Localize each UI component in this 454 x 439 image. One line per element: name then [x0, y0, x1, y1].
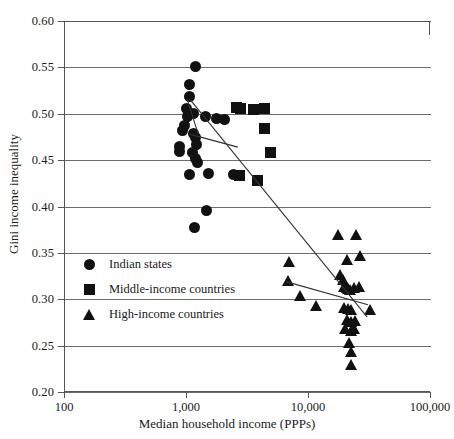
- y-tick-mark: [58, 160, 64, 161]
- gridline: [65, 207, 431, 208]
- gridline: [65, 346, 431, 347]
- x-tick-mark: [186, 392, 187, 398]
- data-point-circle: [174, 146, 185, 157]
- legend-item-square: Middle-income countries: [76, 277, 235, 302]
- x-tick-mark: [430, 392, 431, 398]
- data-point-triangle: [310, 300, 322, 311]
- circle-marker-icon: [76, 259, 102, 270]
- data-point-circle: [184, 169, 195, 180]
- data-point-triangle: [294, 290, 306, 301]
- square-glyph: [84, 284, 95, 295]
- triangle-glyph: [83, 309, 95, 320]
- data-point-circle: [203, 168, 214, 179]
- y-tick-mark: [58, 299, 64, 300]
- data-point-square: [259, 123, 270, 134]
- data-point-square: [248, 104, 259, 115]
- data-point-circle: [189, 222, 200, 233]
- data-point-triangle: [345, 346, 357, 357]
- x-tick-label: 1,000: [172, 401, 200, 414]
- gridline: [65, 67, 431, 68]
- y-tick-label: 0.55: [2, 61, 54, 74]
- triangle-marker-icon: [76, 309, 102, 320]
- x-tick-mark: [308, 392, 309, 398]
- y-tick-label: 0.25: [2, 340, 54, 353]
- data-point-circle: [219, 114, 230, 125]
- x-tick-label: 100: [55, 401, 74, 414]
- x-tick-mark: [64, 392, 65, 398]
- data-point-circle: [201, 205, 212, 216]
- y-tick-label: 0.50: [2, 108, 54, 121]
- data-point-circle: [192, 157, 203, 168]
- y-tick-label: 0.20: [2, 386, 54, 399]
- x-tick-label: 100,000: [410, 401, 451, 414]
- data-point-triangle: [364, 304, 376, 315]
- data-point-square: [259, 103, 270, 114]
- legend-label: High-income countries: [109, 307, 224, 322]
- gridline: [65, 392, 431, 393]
- data-point-circle: [188, 108, 199, 119]
- square-marker-icon: [76, 284, 102, 295]
- data-point-triangle: [345, 359, 357, 370]
- legend-label: Middle-income countries: [109, 282, 235, 297]
- y-tick-mark: [58, 21, 64, 22]
- data-point-triangle: [354, 250, 366, 261]
- data-point-square: [265, 147, 276, 158]
- y-tick-mark: [58, 207, 64, 208]
- data-point-triangle: [332, 229, 344, 240]
- chart-legend: Indian statesMiddle-income countriesHigh…: [76, 252, 235, 327]
- legend-item-circle: Indian states: [76, 252, 235, 277]
- data-point-triangle: [353, 281, 365, 292]
- y-tick-mark: [58, 253, 64, 254]
- frame-right-cap: [429, 21, 430, 35]
- data-point-circle: [184, 91, 195, 102]
- data-point-triangle: [282, 275, 294, 286]
- plot-area: [64, 21, 430, 392]
- circle-glyph: [84, 259, 95, 270]
- legend-item-triangle: High-income countries: [76, 302, 235, 327]
- y-tick-label: 0.45: [2, 154, 54, 167]
- data-point-triangle: [348, 323, 360, 334]
- x-axis-title: Median household income (PPPs): [0, 416, 454, 432]
- scatter-chart: Gini income inequality Median household …: [0, 0, 454, 439]
- data-point-circle: [190, 61, 201, 72]
- y-tick-label: 0.40: [2, 201, 54, 214]
- data-point-circle: [177, 125, 188, 136]
- y-tick-label: 0.30: [2, 293, 54, 306]
- gridline: [65, 21, 431, 22]
- y-tick-label: 0.60: [2, 15, 54, 28]
- data-point-circle: [184, 79, 195, 90]
- data-point-square: [235, 103, 246, 114]
- y-tick-mark: [58, 346, 64, 347]
- y-axis-title: Gini income inequality: [6, 94, 22, 294]
- data-point-triangle: [350, 229, 362, 240]
- data-point-circle: [200, 111, 211, 122]
- y-tick-mark: [58, 114, 64, 115]
- y-tick-label: 0.35: [2, 247, 54, 260]
- legend-label: Indian states: [109, 257, 172, 272]
- gridline: [65, 160, 431, 161]
- data-point-triangle: [341, 254, 353, 265]
- data-point-square: [234, 170, 245, 181]
- x-tick-label: 10,000: [291, 401, 325, 414]
- y-tick-mark: [58, 67, 64, 68]
- data-point-triangle: [283, 256, 295, 267]
- data-point-square: [252, 175, 263, 186]
